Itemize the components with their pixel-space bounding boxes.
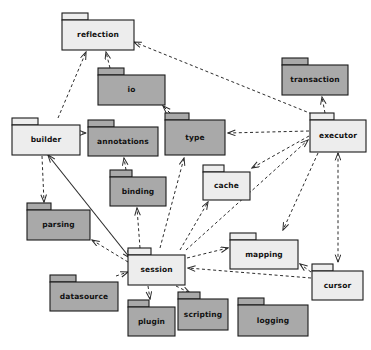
package-session[interactable]	[128, 248, 185, 285]
package-parsing[interactable]	[27, 203, 90, 240]
package-annotations[interactable]	[88, 120, 158, 156]
package-builder[interactable]	[12, 118, 80, 155]
package-body-datasource	[50, 282, 118, 311]
package-transaction[interactable]	[282, 58, 348, 95]
package-body-plugin	[128, 307, 175, 336]
package-body-reflection	[62, 20, 134, 50]
dependency-executor-to-mapping	[283, 153, 318, 230]
package-body-builder	[12, 125, 80, 155]
package-tab-transaction	[282, 58, 308, 65]
package-tab-session	[128, 248, 151, 255]
dependency-executor-to-type	[228, 131, 309, 133]
dependency-cursor-to-mapping	[300, 264, 311, 272]
dependency-datasource-to-session	[116, 272, 128, 276]
package-nodes	[12, 13, 366, 336]
package-scripting[interactable]	[178, 292, 228, 330]
package-body-type	[165, 120, 225, 155]
dependency-type-to-io	[163, 106, 170, 113]
dependency-session-to-cache	[180, 202, 208, 250]
dependency-io-to-reflection	[106, 52, 110, 68]
diagram-canvas	[0, 0, 371, 350]
package-body-session	[128, 255, 185, 285]
package-tab-io	[98, 68, 124, 75]
package-body-scripting	[178, 299, 228, 330]
package-mapping[interactable]	[230, 233, 298, 269]
dependency-executor-to-transaction	[322, 97, 325, 113]
package-body-cache	[203, 172, 250, 200]
dependency-executor-to-cache	[252, 136, 309, 168]
dependency-session-to-binding	[137, 208, 140, 248]
dependency-session-to-mapping	[187, 248, 228, 258]
uml-package-diagram: reflectioniotransactionbuilderannotation…	[0, 0, 371, 350]
package-tab-scripting	[178, 292, 200, 299]
package-tab-reflection	[62, 13, 88, 20]
package-body-logging	[238, 305, 308, 336]
package-tab-parsing	[27, 203, 51, 210]
dependency-session-to-plugin	[148, 286, 150, 299]
package-logging[interactable]	[238, 298, 308, 336]
package-executor[interactable]	[310, 113, 366, 152]
dependency-session-to-parsing	[92, 240, 128, 262]
package-body-io	[98, 75, 165, 105]
package-tab-logging	[238, 298, 264, 305]
package-tab-builder	[12, 118, 38, 125]
package-body-parsing	[27, 210, 90, 240]
dependency-builder-to-parsing	[42, 156, 44, 202]
package-body-executor	[310, 120, 366, 152]
package-tab-mapping	[230, 233, 256, 240]
package-type[interactable]	[165, 113, 225, 155]
package-cursor[interactable]	[312, 264, 363, 300]
dependency-builder-to-reflection	[58, 52, 86, 118]
package-body-transaction	[282, 65, 348, 95]
package-tab-plugin	[128, 300, 149, 307]
package-tab-binding	[110, 170, 132, 177]
package-tab-cache	[203, 165, 224, 172]
package-binding[interactable]	[110, 170, 166, 206]
package-datasource[interactable]	[50, 275, 118, 311]
package-tab-type	[165, 113, 189, 120]
package-tab-executor	[310, 113, 334, 120]
package-tab-cursor	[312, 264, 333, 271]
package-tab-datasource	[50, 275, 76, 282]
package-body-annotations	[88, 127, 158, 156]
package-plugin[interactable]	[128, 300, 175, 336]
package-tab-annotations	[88, 120, 114, 127]
package-cache[interactable]	[203, 165, 250, 200]
package-body-binding	[110, 177, 166, 206]
package-body-mapping	[230, 240, 298, 269]
package-body-cursor	[312, 271, 363, 300]
dependency-binding-to-annotations	[124, 158, 126, 170]
package-reflection[interactable]	[62, 13, 134, 50]
package-io[interactable]	[98, 68, 165, 105]
